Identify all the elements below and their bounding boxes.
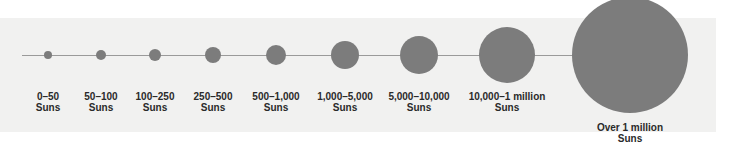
size-circle-1000-5000 <box>331 41 359 69</box>
label-10000-1million: 10,000–1 million Suns <box>452 91 562 113</box>
size-circle-50-100 <box>96 50 106 60</box>
size-circle-over-1million <box>572 0 688 113</box>
unit-text: Suns <box>575 133 685 144</box>
unit-text: Suns <box>452 102 562 113</box>
size-circle-500-1000 <box>266 45 286 65</box>
size-circle-0-50 <box>44 51 52 59</box>
range-text: 10,000–1 million <box>452 91 562 102</box>
size-circle-250-500 <box>205 47 221 63</box>
size-circle-10000-1million <box>479 27 535 83</box>
label-over-1million: Over 1 million Suns <box>575 122 685 144</box>
size-circle-100-250 <box>149 49 161 61</box>
size-circle-5000-10000 <box>400 36 438 74</box>
range-text: Over 1 million <box>575 122 685 133</box>
